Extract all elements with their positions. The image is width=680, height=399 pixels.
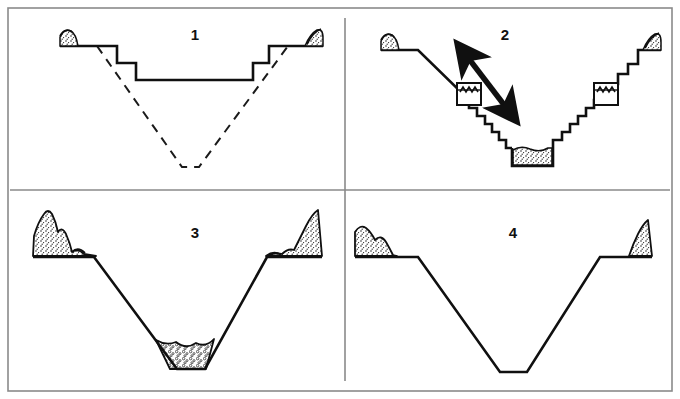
canvas-background [0,0,680,399]
sediment-basin-stipple [513,147,552,165]
machine-box-right [594,83,618,105]
machine-box-left [457,83,481,105]
panel-1-number: 1 [191,26,199,43]
panel-4-number: 4 [509,224,518,241]
figure-root: 1 [0,0,680,399]
panel-2-number: 2 [501,26,509,43]
panel-3-number: 3 [191,224,199,241]
figure-canvas: 1 [0,0,680,399]
